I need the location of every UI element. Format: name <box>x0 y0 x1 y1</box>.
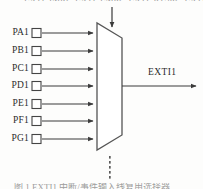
input-label-pa1: PA1 <box>0 28 29 38</box>
input-label-pe1: PE1 <box>0 99 29 109</box>
mux-diagram <box>0 0 203 189</box>
output-label-exti1: EXTI1 <box>148 68 176 78</box>
input-label-pf1: PF1 <box>0 116 29 126</box>
input-lines <box>42 33 93 139</box>
input-label-pd1: PD1 <box>0 81 29 91</box>
input-label-pc1: PC1 <box>0 64 29 74</box>
input-port-squares <box>32 29 41 144</box>
mux-body <box>97 23 122 150</box>
input-label-pg1: PG1 <box>0 134 29 144</box>
figure-canvas: EXTI_IMR、EXTI_EMR、EXTI_RTSR、EXTI_FTSR <box>0 0 203 189</box>
clipped-caption-fragment: 图 1 EXTI1 中断/事件输入线复用选择器 <box>14 183 170 189</box>
input-label-pb1: PB1 <box>0 46 29 56</box>
continuation-dots <box>109 156 111 179</box>
